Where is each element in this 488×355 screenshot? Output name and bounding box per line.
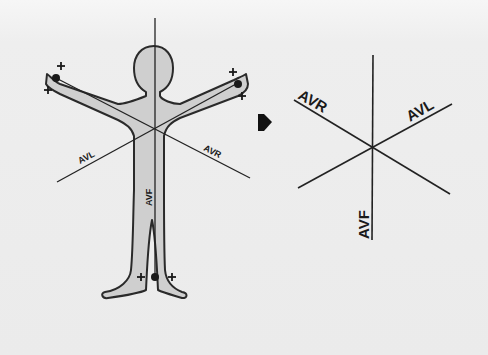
plus-sign-icon — [229, 68, 237, 76]
diagram-svg: AVL AVR AVF AVR AVL AVF — [0, 0, 488, 355]
left-avf-label: AVF — [144, 188, 154, 206]
left-foot-electrode — [151, 273, 159, 281]
left-arm-electrode — [234, 80, 242, 88]
plus-sign-icon — [57, 62, 65, 70]
right-arm-electrode — [52, 74, 60, 82]
diagram-canvas: AVL AVR AVF AVR AVL AVF — [0, 0, 488, 355]
right-avf-label: AVF — [355, 210, 372, 239]
left-avr-label: AVR — [202, 143, 223, 160]
left-avl-label: AVL — [76, 149, 96, 166]
right-avl-label: AVL — [403, 95, 437, 124]
plus-sign-icon — [168, 273, 176, 281]
right-lead-lines — [294, 55, 452, 240]
right-arrow-icon — [258, 114, 272, 131]
